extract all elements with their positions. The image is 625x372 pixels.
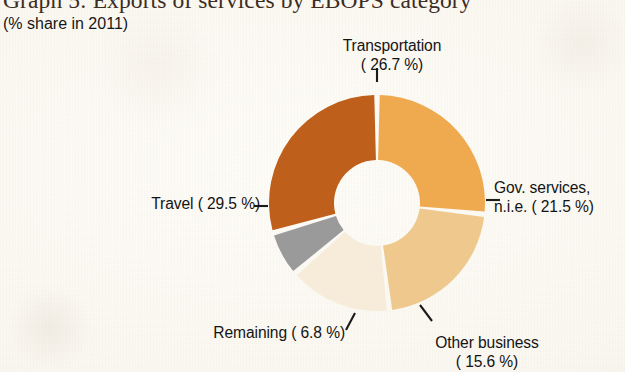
slice-label-travel-text: Travel ( 29.5 %) xyxy=(82,194,260,213)
slice-label-gov-services-name: Gov. services, xyxy=(494,178,625,197)
leader-line-remaining xyxy=(346,313,355,330)
donut-slice-travel[interactable] xyxy=(269,95,376,230)
slice-label-other-business-value: ( 15.6 %) xyxy=(412,352,562,371)
donut-chart: Transportation ( 26.7 %) Gov. services, … xyxy=(0,0,625,372)
slice-label-transportation: Transportation ( 26.7 %) xyxy=(304,36,480,74)
slice-label-gov-services-value: n.i.e. ( 21.5 %) xyxy=(494,197,625,216)
slice-label-remaining-text: Remaining ( 6.8 %) xyxy=(155,323,345,342)
donut-slice-group xyxy=(269,95,485,311)
slice-label-other-business: Other business ( 15.6 %) xyxy=(412,333,562,371)
donut-slice-transportation[interactable] xyxy=(378,95,485,212)
donut-slice-gov-services-n-i-e[interactable] xyxy=(383,209,484,310)
leader-line-other-business xyxy=(420,305,432,321)
slice-label-other-business-name: Other business xyxy=(412,333,562,352)
slice-label-transportation-value: ( 26.7 %) xyxy=(304,55,480,74)
slice-label-travel: Travel ( 29.5 %) xyxy=(82,194,260,213)
slice-label-remaining: Remaining ( 6.8 %) xyxy=(155,323,345,342)
slice-label-gov-services: Gov. services, n.i.e. ( 21.5 %) xyxy=(494,178,625,216)
slice-label-transportation-name: Transportation xyxy=(304,36,480,55)
